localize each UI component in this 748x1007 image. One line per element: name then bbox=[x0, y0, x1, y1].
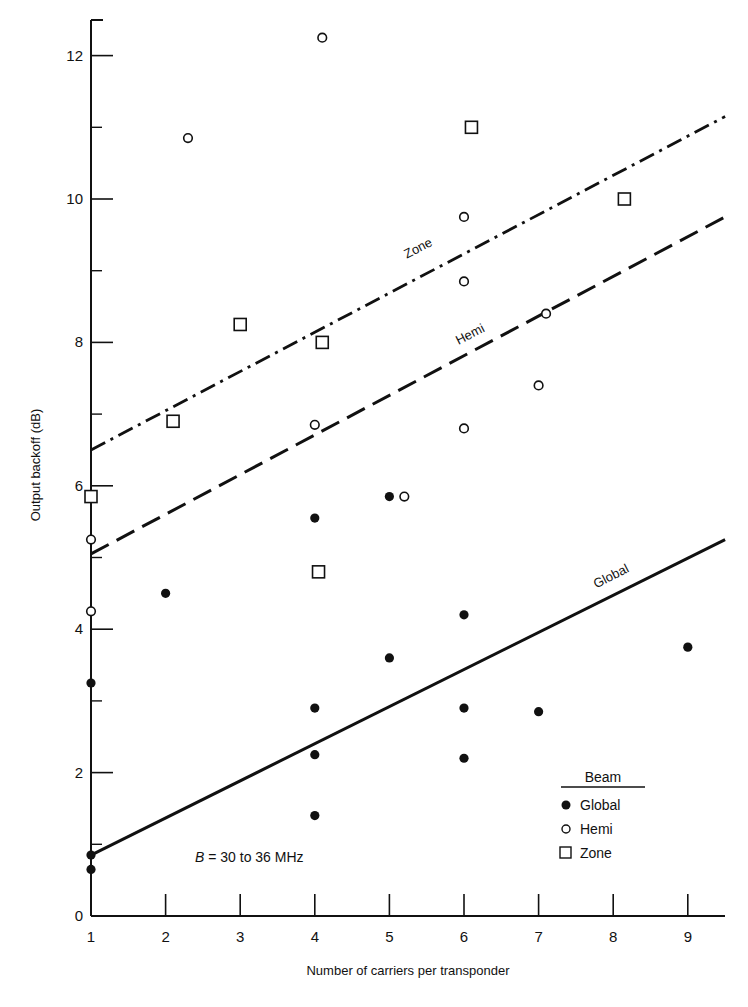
y-tick-label: 8 bbox=[75, 333, 83, 350]
legend-zone-marker-icon bbox=[560, 847, 571, 858]
hemi-data-point bbox=[87, 535, 96, 544]
global-data-point bbox=[385, 492, 394, 501]
hemi-data-point bbox=[400, 492, 409, 501]
zone-line-label: Zone bbox=[401, 235, 434, 262]
annotation-variable: B bbox=[195, 849, 204, 865]
legend-hemi-label: Hemi bbox=[580, 821, 613, 837]
hemi-data-point bbox=[87, 607, 96, 616]
legend-zone-label: Zone bbox=[580, 845, 612, 861]
y-tick-label: 12 bbox=[66, 47, 83, 64]
x-tick-label: 7 bbox=[534, 928, 542, 945]
y-tick-label: 10 bbox=[66, 190, 83, 207]
data-points bbox=[85, 33, 692, 874]
y-tick-label: 0 bbox=[75, 907, 83, 924]
legend-hemi-marker-icon bbox=[562, 825, 570, 833]
global-fit-line bbox=[91, 540, 725, 855]
y-tick-label: 4 bbox=[75, 620, 83, 637]
chart: 024681012123456789 Output backoff (dB) N… bbox=[0, 0, 748, 1007]
legend-title: Beam bbox=[585, 769, 622, 785]
bandwidth-annotation: B = 30 to 36 MHz bbox=[195, 849, 304, 865]
hemi-data-point bbox=[318, 33, 327, 42]
axes: 024681012123456789 bbox=[66, 20, 725, 945]
global-data-point bbox=[310, 811, 319, 820]
zone-data-point bbox=[234, 318, 246, 330]
legend-global-marker-icon bbox=[562, 801, 571, 810]
hemi-fit-line bbox=[91, 217, 725, 554]
global-data-point bbox=[86, 865, 95, 874]
x-tick-label: 6 bbox=[460, 928, 468, 945]
global-data-point bbox=[310, 703, 319, 712]
x-tick-label: 5 bbox=[385, 928, 393, 945]
x-tick-label: 8 bbox=[609, 928, 617, 945]
zone-data-point bbox=[167, 415, 179, 427]
hemi-data-point bbox=[460, 277, 469, 286]
zone-data-point bbox=[316, 336, 328, 348]
global-line-label: Global bbox=[591, 561, 631, 591]
zone-data-point bbox=[313, 566, 325, 578]
legend: Beam Global Hemi Zone bbox=[560, 769, 645, 861]
x-tick-label: 3 bbox=[236, 928, 244, 945]
hemi-data-point bbox=[542, 309, 551, 318]
fit-lines bbox=[91, 117, 725, 856]
global-data-point bbox=[459, 703, 468, 712]
global-data-point bbox=[310, 750, 319, 759]
x-tick-label: 4 bbox=[311, 928, 319, 945]
global-data-point bbox=[86, 678, 95, 687]
global-data-point bbox=[459, 754, 468, 763]
legend-global-label: Global bbox=[580, 797, 620, 813]
x-tick-label: 1 bbox=[87, 928, 95, 945]
hemi-data-point bbox=[460, 424, 469, 433]
annotation-value: = 30 to 36 MHz bbox=[204, 849, 303, 865]
zone-data-point bbox=[465, 121, 477, 133]
y-tick-label: 6 bbox=[75, 477, 83, 494]
x-tick-label: 9 bbox=[684, 928, 692, 945]
hemi-data-point bbox=[311, 421, 320, 430]
global-data-point bbox=[161, 589, 170, 598]
global-data-point bbox=[683, 643, 692, 652]
global-data-point bbox=[459, 610, 468, 619]
hemi-line-label: Hemi bbox=[453, 320, 487, 347]
hemi-data-point bbox=[460, 213, 469, 222]
hemi-data-point bbox=[184, 134, 193, 143]
zone-fit-line bbox=[91, 117, 725, 450]
zone-data-point bbox=[618, 193, 630, 205]
y-tick-label: 2 bbox=[75, 764, 83, 781]
global-data-point bbox=[385, 653, 394, 662]
global-data-point bbox=[534, 707, 543, 716]
global-data-point bbox=[86, 850, 95, 859]
hemi-data-point bbox=[534, 381, 543, 390]
y-axis-title: Output backoff (dB) bbox=[28, 409, 43, 522]
x-tick-label: 2 bbox=[161, 928, 169, 945]
global-data-point bbox=[310, 513, 319, 522]
zone-data-point bbox=[85, 491, 97, 503]
x-axis-title: Number of carriers per transponder bbox=[306, 963, 510, 978]
